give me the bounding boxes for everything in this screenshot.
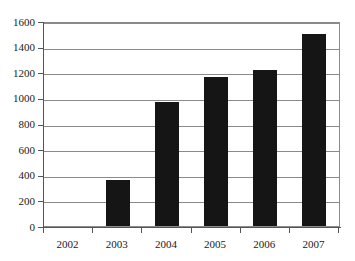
y-axis-tick-label: 1000 — [0, 93, 35, 104]
bars-layer — [44, 23, 339, 226]
y-axis-tick — [38, 125, 43, 126]
bar[interactable] — [106, 180, 130, 226]
y-axis-tick-label: 0 — [0, 222, 35, 233]
bar-slot-2007 — [290, 23, 339, 226]
x-axis-tick-label: 2002 — [43, 238, 93, 250]
y-axis-tick-label: 200 — [0, 196, 35, 207]
y-axis-tick-label: 1200 — [0, 68, 35, 79]
x-axis-tick — [141, 228, 142, 233]
y-axis-tick — [38, 176, 43, 177]
x-axis-tick — [289, 228, 290, 233]
x-axis-tick-label: 2003 — [92, 238, 142, 250]
x-axis-line — [43, 227, 341, 228]
bar-slot-2003 — [93, 23, 142, 226]
y-axis-tick-label: 800 — [0, 119, 35, 130]
y-axis-tick — [38, 48, 43, 49]
x-axis-tick-label: 2007 — [288, 238, 338, 250]
bar-slot-2004 — [142, 23, 191, 226]
bar-slot-2006 — [241, 23, 290, 226]
bar-slot-2002 — [44, 23, 93, 226]
x-axis-tick — [338, 228, 339, 233]
y-axis-tick-label: 1600 — [0, 17, 35, 28]
bar[interactable] — [155, 102, 179, 226]
x-axis-tick — [191, 228, 192, 233]
x-axis-tick — [92, 228, 93, 233]
x-axis-tick-label: 2005 — [190, 238, 240, 250]
y-axis-tick — [38, 150, 43, 151]
y-axis-tick-label: 400 — [0, 170, 35, 181]
y-axis-line — [43, 22, 44, 228]
bar[interactable] — [302, 34, 326, 226]
x-axis-tick — [43, 228, 44, 233]
y-axis-tick — [38, 99, 43, 100]
x-axis-tick-label: 2006 — [239, 238, 289, 250]
y-axis-tick-label: 1400 — [0, 42, 35, 53]
plot-area — [43, 22, 340, 227]
y-axis-tick — [38, 73, 43, 74]
bar[interactable] — [204, 77, 228, 226]
y-axis-tick — [38, 201, 43, 202]
bar-slot-2005 — [192, 23, 241, 226]
y-axis-tick-label: 600 — [0, 145, 35, 156]
x-axis-tick — [240, 228, 241, 233]
x-axis-tick-label: 2004 — [141, 238, 191, 250]
bar-chart: 1600 1400 1200 1000 800 600 400 200 0 20… — [0, 0, 355, 261]
bar[interactable] — [253, 70, 277, 226]
y-axis-tick — [38, 22, 43, 23]
